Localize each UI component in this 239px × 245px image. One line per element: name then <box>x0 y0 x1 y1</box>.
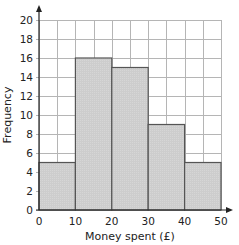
histogram-bar <box>148 125 184 211</box>
y-tick-label: 6 <box>26 147 33 159</box>
y-tick-label: 10 <box>20 109 33 121</box>
y-axis-title: Frequency <box>1 86 14 143</box>
x-axis-title: Money spent (£) <box>85 230 175 243</box>
y-tick-label: 16 <box>20 52 34 64</box>
x-tick-label: 40 <box>178 215 191 227</box>
histogram-chart: 02468101214161820 01020304050 Money spen… <box>0 0 239 245</box>
x-axis-tick-labels: 01020304050 <box>36 215 228 227</box>
x-tick-label: 0 <box>36 215 43 227</box>
y-axis-tick-labels: 02468101214161820 <box>20 14 34 216</box>
y-tick-label: 4 <box>26 166 33 178</box>
x-tick-label: 20 <box>105 215 118 227</box>
y-tick-label: 12 <box>20 90 33 102</box>
y-tick-label: 14 <box>20 71 34 83</box>
histogram-bar <box>185 163 221 211</box>
y-tick-label: 2 <box>26 185 33 197</box>
x-axis-arrow-icon <box>226 207 233 213</box>
histogram-bar <box>39 163 75 211</box>
y-tick-label: 20 <box>20 14 33 26</box>
y-axis-arrow-icon <box>36 5 42 12</box>
y-tick-label: 18 <box>20 33 33 45</box>
x-tick-label: 30 <box>142 215 155 227</box>
x-tick-label: 10 <box>69 215 82 227</box>
histogram-bar <box>75 58 111 210</box>
y-tick-label: 0 <box>26 204 33 216</box>
x-tick-label: 50 <box>214 215 227 227</box>
histogram-bar <box>112 68 148 211</box>
y-tick-label: 8 <box>26 128 33 140</box>
